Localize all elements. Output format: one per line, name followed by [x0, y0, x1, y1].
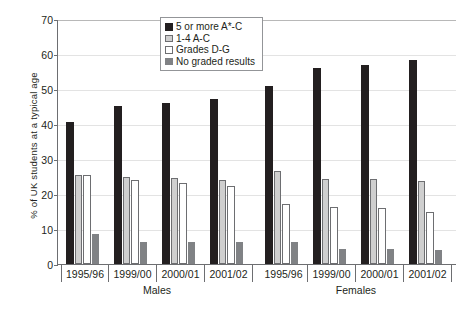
- y-axis-title: % of UK students at a typical age: [28, 21, 39, 271]
- y-tick-label-70: 70: [41, 14, 53, 26]
- bar-females-2001-02-s2: [418, 181, 426, 264]
- bar-females-1999-00-s2: [322, 179, 330, 264]
- bar-females-1999-00-s1: [313, 68, 321, 264]
- y-tick-label-0: 0: [47, 259, 53, 271]
- bar-females-1999-00-s4: [339, 249, 347, 264]
- bar-males-1999-00-s2: [123, 177, 131, 265]
- bar-males-1999-00-s4: [140, 242, 148, 264]
- y-tick-label-20: 20: [41, 189, 53, 201]
- legend-swatch-icon-1: [165, 35, 173, 43]
- bar-males-2001-02-s3: [227, 186, 235, 264]
- y-tick-label-10: 10: [41, 224, 53, 236]
- bar-females-1995-96-s1: [265, 86, 273, 264]
- bar-males-1995-96-s4: [92, 234, 100, 264]
- bar-females-2000-01-s3: [378, 208, 386, 264]
- bar-females-2000-01-s1: [361, 65, 369, 264]
- legend-label-0: 5 or more A*-C: [176, 21, 242, 33]
- y-tick-label-40: 40: [41, 119, 53, 131]
- bar-females-2001-02-s4: [435, 250, 443, 264]
- bar-males-1995-96-s3: [83, 175, 91, 264]
- legend-swatch-icon-3: [165, 58, 173, 66]
- legend-item-3: No graded results: [165, 56, 255, 68]
- bar-males-2001-02-s4: [236, 242, 244, 264]
- group-label-females: Females: [260, 284, 452, 296]
- bar-males-2000-01-s4: [188, 242, 196, 264]
- legend-swatch-icon-0: [165, 23, 173, 31]
- y-tick-label-60: 60: [41, 49, 53, 61]
- x-tick-males-1995-96: 1995/96: [61, 265, 109, 282]
- bar-males-1995-96-s2: [75, 175, 83, 264]
- x-tick-males-2001-02: 2001/02: [205, 265, 253, 282]
- legend-swatch-icon-2: [165, 46, 173, 54]
- group-label-males: Males: [61, 284, 253, 296]
- bar-males-1999-00-s3: [131, 180, 139, 264]
- bar-chart: % of UK students at a typical age 010203…: [0, 0, 470, 316]
- bar-females-2000-01-s4: [387, 249, 395, 264]
- legend-label-2: Grades D-G: [176, 44, 230, 56]
- x-tick-females-2001-02: 2001/02: [404, 265, 452, 282]
- legend-label-1: 1-4 A-C: [176, 33, 210, 45]
- bar-females-1995-96-s3: [282, 204, 290, 264]
- bar-males-1999-00-s1: [114, 106, 122, 264]
- x-tick-females-1995-96: 1995/96: [260, 265, 308, 282]
- bar-females-1995-96-s4: [291, 242, 299, 264]
- bar-males-1995-96-s1: [66, 122, 74, 264]
- x-tick-males-1999-00: 1999/00: [109, 265, 157, 282]
- bar-males-2000-01-s3: [179, 183, 187, 264]
- legend-item-0: 5 or more A*-C: [165, 21, 255, 33]
- chart-legend: 5 or more A*-C 1-4 A-C Grades D-G No gra…: [160, 17, 263, 71]
- bar-females-2001-02-s3: [426, 212, 434, 265]
- bar-females-2000-01-s2: [370, 179, 378, 264]
- y-tick-label-30: 30: [41, 154, 53, 166]
- legend-item-2: Grades D-G: [165, 44, 255, 56]
- y-tick-label-50: 50: [41, 84, 53, 96]
- bar-males-2000-01-s2: [171, 178, 179, 264]
- x-tick-males-2000-01: 2000/01: [157, 265, 205, 282]
- bar-females-2001-02-s1: [409, 60, 417, 264]
- bar-males-2001-02-s1: [210, 99, 218, 264]
- bar-males-2000-01-s1: [162, 103, 170, 264]
- x-axis-categories: 1995/961999/002000/012001/021995/961999/…: [57, 265, 456, 283]
- legend-item-1: 1-4 A-C: [165, 33, 255, 45]
- legend-label-3: No graded results: [176, 56, 255, 68]
- bar-males-2001-02-s2: [219, 180, 227, 264]
- x-tick-females-1999-00: 1999/00: [308, 265, 356, 282]
- x-tick-females-2000-01: 2000/01: [356, 265, 404, 282]
- bar-females-1999-00-s3: [330, 207, 338, 264]
- bar-females-1995-96-s2: [274, 171, 282, 264]
